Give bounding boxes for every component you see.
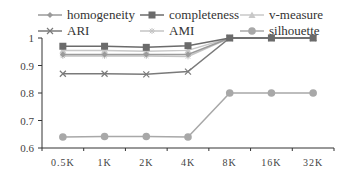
legend-completeness-marker <box>149 12 156 19</box>
legend: homogeneitycompletenessv-measureARIAMIsi… <box>38 7 323 38</box>
y-tick-label: 0.7 <box>20 115 34 127</box>
legend-label: completeness <box>169 7 239 22</box>
completeness-marker <box>143 44 150 51</box>
silhouette-marker <box>309 89 317 97</box>
legend-item-AMI: AMI <box>140 23 194 38</box>
x-tick-label: 16K <box>261 157 281 168</box>
completeness-marker <box>185 42 192 49</box>
legend-item-ARI: ARI <box>38 23 89 38</box>
axes: 0.60.70.80.910.5K1K2K4K8K16K32K <box>20 32 334 168</box>
x-tick-label: 32K <box>303 157 323 168</box>
legend-item-v-measure: v-measure <box>240 7 323 22</box>
silhouette-marker <box>184 133 192 141</box>
y-tick-label: 0.9 <box>20 60 34 72</box>
completeness-marker <box>226 35 233 42</box>
y-tick-label: 0.8 <box>20 87 34 99</box>
silhouette-marker <box>59 133 67 141</box>
line-chart: homogeneitycompletenessv-measureARIAMIsi… <box>0 0 351 179</box>
completeness-marker <box>310 35 317 42</box>
legend-item-homogeneity: homogeneity <box>38 7 135 22</box>
y-tick-label: 1 <box>29 32 35 44</box>
silhouette-marker <box>101 133 109 141</box>
silhouette-marker <box>226 89 234 97</box>
legend-label: v-measure <box>269 7 323 22</box>
legend-homogeneity-marker <box>47 12 53 18</box>
legend-item-completeness: completeness <box>140 7 239 22</box>
legend-item-silhouette: silhouette <box>240 23 320 38</box>
legend-AMI-marker <box>149 28 155 34</box>
silhouette-line <box>63 93 313 137</box>
legend-label: ARI <box>67 23 89 38</box>
legend-label: AMI <box>169 23 194 38</box>
completeness-marker <box>268 35 275 42</box>
series-group <box>59 35 317 141</box>
x-tick-label: 8K <box>223 157 237 168</box>
x-tick-label: 1K <box>97 157 111 168</box>
series-silhouette <box>59 89 317 141</box>
x-tick-label: 0.5K <box>51 157 75 168</box>
y-tick-label: 0.6 <box>20 142 34 154</box>
completeness-marker <box>59 43 66 50</box>
x-tick-label: 4K <box>181 157 195 168</box>
silhouette-marker <box>142 133 150 141</box>
completeness-marker <box>101 43 108 50</box>
legend-label: homogeneity <box>67 7 135 22</box>
x-tick-label: 2K <box>139 157 153 168</box>
legend-silhouette-marker <box>248 27 256 35</box>
silhouette-marker <box>268 89 276 97</box>
